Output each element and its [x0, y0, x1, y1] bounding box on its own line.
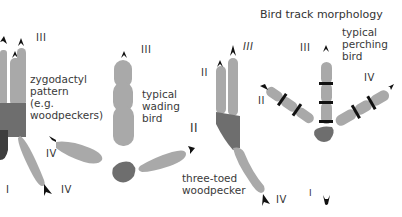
claw-icon [260, 84, 268, 90]
perching-label: typical perching bird [342, 26, 388, 62]
joint-mark [319, 101, 333, 104]
claw-icon [323, 45, 329, 52]
pad-shape [314, 126, 334, 142]
toe-shape [228, 58, 238, 116]
toe-shape [0, 50, 7, 105]
joint-mark [319, 82, 333, 85]
wading-label: typical wading bird [142, 88, 180, 124]
zygodactyl-label: zygodactyl pattern (e.g. woodpeckers) [30, 73, 103, 121]
toe-label-ii: II [258, 95, 265, 106]
toe-label-iv: IV [364, 72, 375, 83]
claw-icon [262, 194, 270, 206]
toe-label-iii: III [243, 41, 253, 52]
claw-icon [121, 51, 127, 58]
joint-mark [319, 120, 333, 123]
toe-shape [17, 48, 26, 106]
toe-label-iii: III [36, 32, 46, 43]
toe-shape [321, 83, 332, 103]
pad-shape [112, 162, 135, 183]
perching-track [260, 45, 394, 205]
toe-shape [56, 142, 102, 164]
pad-shape [216, 112, 240, 150]
toe-label-ii: II [201, 67, 208, 78]
diagram-title: Bird track morphology [260, 8, 383, 21]
toe-label-ii: II [190, 121, 198, 135]
toe-label-iv: IV [276, 194, 287, 205]
toe-shape [113, 106, 134, 146]
claw-icon [49, 136, 56, 142]
claw-icon [0, 36, 7, 44]
toe-label-iv-upper: IV [46, 148, 57, 159]
claw-icon [18, 38, 24, 46]
pad-shape [0, 130, 8, 160]
toe-shape [216, 66, 226, 114]
toe-label-i: I [6, 184, 9, 195]
toe-label-iii: III [300, 42, 310, 53]
toe-label-iii: III [141, 44, 151, 55]
toe-shape [18, 136, 45, 186]
toe-shape [321, 62, 332, 84]
claw-icon [44, 184, 52, 196]
three-toed-woodpecker-label: three-toed woodpecker [182, 172, 245, 196]
toe-shape [138, 150, 186, 172]
claw-icon [323, 195, 330, 205]
toe-label-i: I [309, 188, 312, 198]
claw-icon [230, 45, 236, 56]
claw-icon [217, 60, 223, 67]
claw-icon [188, 146, 195, 154]
claw-icon [388, 84, 394, 90]
toe-label-iv-lower: IV [61, 184, 72, 195]
